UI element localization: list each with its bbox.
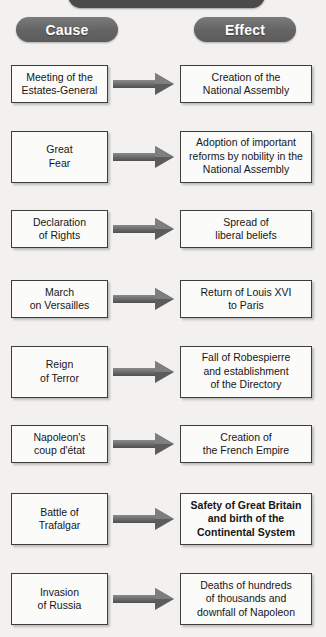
effect-text: Safety of Great Britain and birth of the… bbox=[191, 499, 302, 540]
arrow-shaft bbox=[113, 153, 157, 161]
cause-text: Battle of Trafalgar bbox=[39, 506, 81, 533]
cause-box: Declaration of Rights bbox=[11, 210, 108, 248]
column-header-effect: Effect bbox=[194, 17, 296, 42]
right-arrow-icon bbox=[113, 73, 174, 95]
right-arrow-icon bbox=[113, 361, 174, 383]
cause-effect-row: Battle of TrafalgarSafety of Great Brita… bbox=[0, 479, 326, 559]
effect-box: Adoption of important reforms by nobilit… bbox=[180, 131, 312, 183]
column-header-cause: Cause bbox=[16, 17, 118, 42]
right-arrow-icon bbox=[113, 433, 174, 455]
arrow-shaft bbox=[113, 368, 157, 376]
effect-text: Deaths of hundreds of thousands and down… bbox=[197, 579, 295, 620]
cause-effect-row: March on VersaillesReturn of Louis XVI t… bbox=[0, 264, 326, 334]
cause-effect-row: Invasion of RussiaDeaths of hundreds of … bbox=[0, 559, 326, 637]
cause-effect-diagram: { "title": "The French Revolution", "col… bbox=[0, 0, 326, 637]
arrow-head-highlight bbox=[155, 433, 174, 444]
cause-text: March on Versailles bbox=[30, 286, 90, 313]
cause-text: Great Fear bbox=[46, 143, 72, 170]
arrow-shaft bbox=[113, 440, 157, 448]
effect-text: Spread of liberal beliefs bbox=[215, 216, 276, 243]
column-header-row: Cause Effect bbox=[0, 17, 326, 43]
arrow-head-highlight bbox=[155, 288, 174, 299]
right-arrow-icon bbox=[113, 588, 174, 610]
arrow-head-highlight bbox=[155, 588, 174, 599]
diagram-title: The French Revolution bbox=[94, 0, 239, 3]
cause-effect-row: Meeting of the Estates-GeneralCreation o… bbox=[0, 49, 326, 119]
effect-box: Return of Louis XVI to Paris bbox=[180, 280, 312, 318]
cause-text: Declaration of Rights bbox=[33, 216, 86, 243]
arrow-shaft bbox=[113, 595, 157, 603]
cause-text: Meeting of the Estates-General bbox=[22, 71, 98, 98]
effect-box: Safety of Great Britain and birth of the… bbox=[180, 493, 312, 545]
cause-box: Invasion of Russia bbox=[11, 573, 108, 625]
cause-effect-rows: Meeting of the Estates-GeneralCreation o… bbox=[0, 49, 326, 637]
right-arrow-icon bbox=[113, 146, 174, 168]
right-arrow-icon bbox=[113, 218, 174, 240]
column-header-cause-label: Cause bbox=[45, 22, 88, 38]
cause-text: Reign of Terror bbox=[40, 358, 79, 385]
effect-text: Creation of the National Assembly bbox=[203, 71, 289, 98]
right-arrow-icon bbox=[113, 288, 174, 310]
arrow-shaft bbox=[113, 80, 157, 88]
cause-box: Napoleon's coup d'état bbox=[11, 425, 108, 463]
effect-text: Return of Louis XVI to Paris bbox=[200, 286, 291, 313]
effect-box: Deaths of hundreds of thousands and down… bbox=[180, 573, 312, 625]
cause-effect-row: Great FearAdoption of important reforms … bbox=[0, 119, 326, 194]
effect-text: Fall of Robespierre and establishment of… bbox=[202, 351, 291, 392]
cause-effect-row: Reign of TerrorFall of Robespierre and e… bbox=[0, 334, 326, 409]
right-arrow-icon bbox=[113, 508, 174, 530]
cause-effect-row: Declaration of RightsSpread of liberal b… bbox=[0, 194, 326, 264]
effect-text: Creation of the French Empire bbox=[203, 431, 289, 458]
arrow-head-highlight bbox=[155, 218, 174, 229]
effect-box: Creation of the French Empire bbox=[180, 425, 312, 463]
cause-effect-row: Napoleon's coup d'étatCreation of the Fr… bbox=[0, 409, 326, 479]
cause-box: Meeting of the Estates-General bbox=[11, 65, 108, 103]
arrow-head-highlight bbox=[155, 146, 174, 157]
arrow-head-highlight bbox=[155, 73, 174, 84]
effect-box: Creation of the National Assembly bbox=[180, 65, 312, 103]
arrow-shaft bbox=[113, 515, 157, 523]
cause-box: Great Fear bbox=[11, 131, 108, 183]
cause-box: Battle of Trafalgar bbox=[11, 493, 108, 545]
cause-box: Reign of Terror bbox=[11, 346, 108, 398]
effect-text: Adoption of important reforms by nobilit… bbox=[189, 136, 303, 177]
arrow-head-highlight bbox=[155, 361, 174, 372]
cause-text: Napoleon's coup d'état bbox=[33, 431, 85, 458]
column-header-effect-label: Effect bbox=[225, 22, 265, 38]
arrow-shaft bbox=[113, 295, 157, 303]
effect-box: Fall of Robespierre and establishment of… bbox=[180, 346, 312, 398]
arrow-shaft bbox=[113, 225, 157, 233]
effect-box: Spread of liberal beliefs bbox=[180, 210, 312, 248]
arrow-head-highlight bbox=[155, 508, 174, 519]
cause-text: Invasion of Russia bbox=[38, 586, 82, 613]
diagram-title-pill: The French Revolution bbox=[68, 0, 265, 8]
cause-box: March on Versailles bbox=[11, 280, 108, 318]
